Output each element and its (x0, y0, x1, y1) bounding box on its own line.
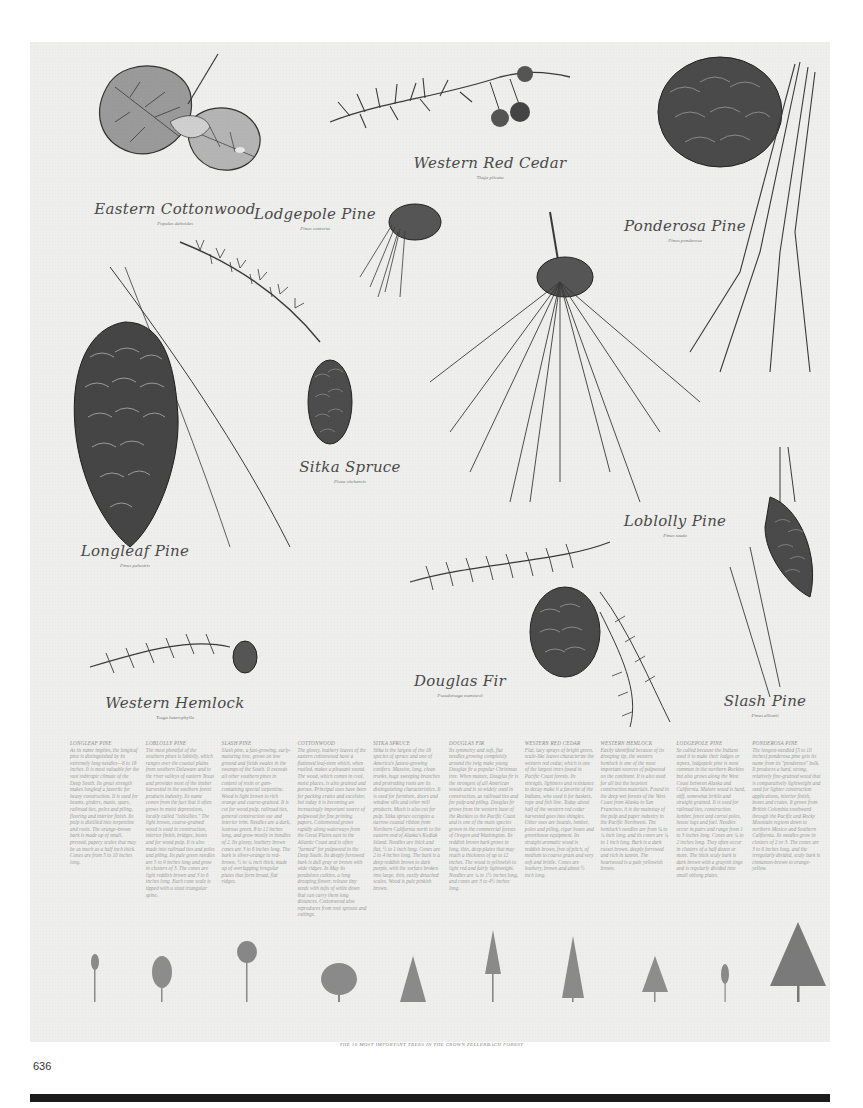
common-name: Sitka Spruce (290, 458, 410, 476)
tree-poster: Eastern Cottonwood Populus deltoides Wes… (30, 42, 830, 1042)
tree-silhouette-lodgepole (720, 962, 730, 1002)
specimen-label: Western Red Cedar Thuja plicata (410, 154, 570, 180)
poster-caption: The 10 most important trees in the Crown… (0, 1042, 863, 1047)
description-title: Western Hemlock (601, 740, 671, 747)
description-douglas-fir: Douglas Fir Its symmetry and soft, flat … (449, 740, 519, 918)
description-body: Easily identified because of its droopin… (601, 747, 671, 872)
latin-name: Tsuga heterophylla (100, 715, 250, 720)
tree-silhouette-longleaf (88, 952, 102, 1002)
cedar-sprig-illustration (320, 52, 580, 162)
tree-silhouette-ponderosa (770, 922, 826, 1002)
specimen-western-hemlock: Western Hemlock Tsuga heterophylla (80, 612, 280, 732)
description-title: Lodgepole Pine (676, 740, 746, 747)
description-body: As its name implies, the longleaf pine i… (70, 747, 140, 866)
description-loblolly-pine: Loblolly Pine The most plentiful of the … (146, 740, 216, 918)
specimen-label: Longleaf Pine Pinus palustris (65, 542, 205, 568)
latin-name: Pseudotsuga menziesii (410, 693, 510, 698)
longleaf-cone-illustration (50, 267, 300, 547)
description-sitka-spruce: Sitka Spruce Sitka is the largest of the… (373, 740, 443, 918)
description-title: Slash Pine (222, 740, 292, 747)
specimen-longleaf-pine: Longleaf Pine Pinus palustris (50, 267, 300, 587)
description-western-red-cedar: Western Red Cedar Flat, lacy sprays of b… (525, 740, 595, 918)
specimen-slash-pine: Slash Pine Pinus elliottii (670, 447, 830, 727)
specimen-eastern-cottonwood: Eastern Cottonwood Populus deltoides (70, 52, 280, 182)
tree-silhouette-red-cedar (562, 936, 584, 1002)
tree-silhouette-slash (235, 940, 259, 1002)
tree-silhouettes (70, 930, 830, 1010)
specimen-western-red-cedar: Western Red Cedar Thuja plicata (320, 52, 580, 172)
description-longleaf-pine: Longleaf Pine As its name implies, the l… (70, 740, 140, 918)
description-title: Longleaf Pine (70, 740, 140, 747)
description-title: Douglas Fir (449, 740, 519, 747)
specimen-label: Sitka Spruce Picea sitchensis (290, 458, 410, 484)
description-title: Western Red Cedar (525, 740, 595, 747)
description-body: The glossy, leathery leaves of the easte… (297, 747, 367, 918)
latin-name: Populus deltoides (70, 221, 280, 226)
species-descriptions: Longleaf Pine As its name implies, the l… (70, 740, 822, 918)
latin-name: Pinus elliottii (710, 713, 820, 718)
loblolly-cone-illustration (410, 212, 710, 512)
latin-name: Pinus palustris (65, 563, 205, 568)
specimen-label: Douglas Fir Pseudotsuga menziesii (410, 672, 510, 698)
description-body: The most plentiful of the southern pines… (146, 747, 216, 899)
slash-pine-cone-illustration (670, 447, 830, 697)
description-title: Sitka Spruce (373, 740, 443, 747)
description-slash-pine: Slash Pine Slash pine, a fast-growing, e… (222, 740, 292, 918)
description-body: Its symmetry and soft, flat needles grow… (449, 747, 519, 892)
common-name: Longleaf Pine (65, 542, 205, 560)
common-name: Douglas Fir (410, 672, 510, 690)
douglas-fir-branch-illustration (400, 532, 680, 732)
description-cottonwood: Cottonwood The glossy, leathery leaves o… (297, 740, 367, 918)
latin-name: Thuja plicata (410, 175, 570, 180)
description-lodgepole-pine: Lodgepole Pine So called because the Ind… (676, 740, 746, 918)
page-number: 636 (33, 1060, 51, 1072)
description-ponderosa-pine: Ponderosa Pine The longest-needled (5 to… (752, 740, 822, 918)
specimen-loblolly-pine: Loblolly Pine Pinus taeda (410, 212, 710, 522)
description-body: Sitka is the largest of the 18 species o… (373, 747, 443, 892)
hemlock-sprig-illustration (80, 612, 280, 682)
description-title: Loblolly Pine (146, 740, 216, 747)
description-title: Ponderosa Pine (752, 740, 822, 747)
description-body: So called because the Indians used it to… (676, 747, 746, 879)
specimen-label: Western Hemlock Tsuga heterophylla (100, 694, 250, 720)
common-name: Eastern Cottonwood (70, 200, 280, 218)
description-western-hemlock: Western Hemlock Easily identified becaus… (601, 740, 671, 918)
description-body: The longest-needled (5 to 10 inches) pon… (752, 747, 822, 872)
specimen-label: Slash Pine Pinus elliottii (710, 692, 820, 718)
tree-silhouette-loblolly (150, 952, 174, 1002)
common-name: Western Red Cedar (410, 154, 570, 172)
description-body: Slash pine, a fast-growing, early-maturi… (222, 747, 292, 885)
latin-name: Picea sitchensis (290, 479, 410, 484)
tree-silhouette-cottonwood (320, 962, 358, 1002)
cottonwood-leaves-illustration (70, 52, 280, 182)
description-body: Flat, lacy sprays of bright green, scale… (525, 747, 595, 879)
page-rule (30, 1094, 830, 1102)
description-title: Cottonwood (297, 740, 367, 747)
tree-silhouette-hemlock (642, 956, 668, 1002)
common-name: Slash Pine (710, 692, 820, 710)
common-name: Western Hemlock (100, 694, 250, 712)
tree-silhouette-douglas-fir (485, 930, 501, 1002)
specimen-label: Eastern Cottonwood Populus deltoides (70, 200, 280, 226)
tree-silhouette-sitka (400, 956, 426, 1002)
specimen-douglas-fir: Douglas Fir Pseudotsuga menziesii (400, 532, 680, 732)
